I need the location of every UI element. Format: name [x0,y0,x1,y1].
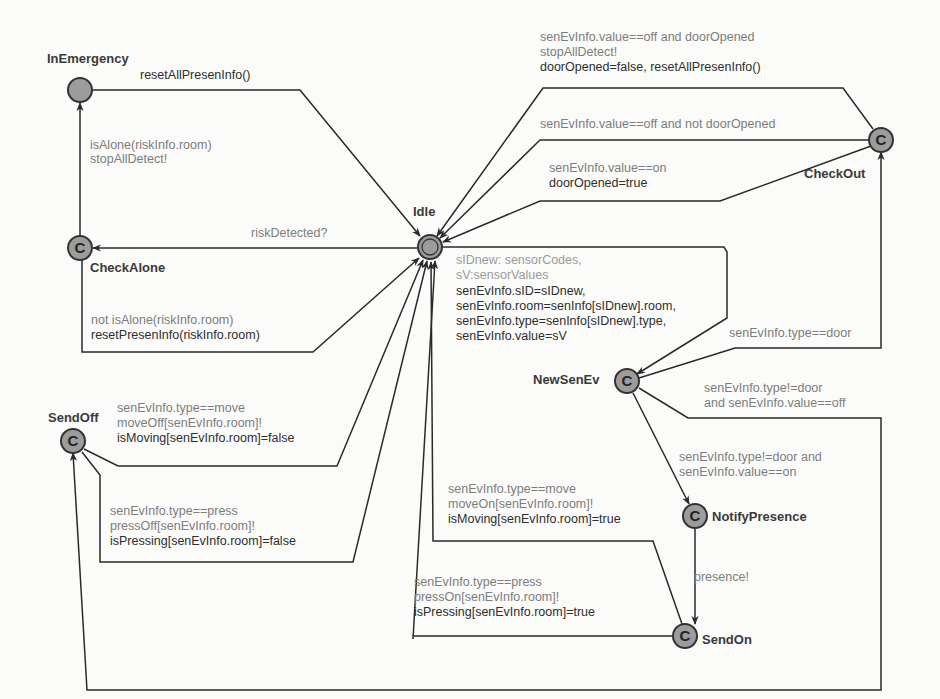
label-checkout-sync-stop: stopAllDetect! [540,45,617,59]
committed-icon: C [680,627,691,644]
node-new-sen-ev[interactable]: C [615,369,639,393]
node-label-idle: Idle [413,204,435,219]
label-sendoff-move-assign: isMoving[senEvInfo.room]=false [117,431,295,445]
node-send-on[interactable]: C [673,624,697,648]
label-checkout-guard-on: senEvInfo.value==on [549,161,666,175]
label-select-sidnew: sIDnew: sensorCodes, [456,253,582,267]
label-sendon-press-sync: pressOn[senEvInfo.room]! [414,590,559,604]
label-newsenev-guard-notdoor-on-2: senEvInfo.value==on [679,465,796,479]
label-checkalone-idle-guard: not isAlone(riskInfo.room) [91,313,233,327]
label-assign-value: senEvInfo.value=sV [456,329,567,343]
label-sendoff-press-guard: senEvInfo.type==press [110,504,238,518]
node-label-send-off: SendOff [48,410,99,425]
node-in-emergency[interactable] [68,78,92,102]
label-newsenev-guard-notdoor-off-1: senEvInfo.type!=door [704,381,822,395]
label-assign-room: senEvInfo.room=senInfo[sIDnew].room, [456,299,676,313]
node-send-off[interactable]: C [61,429,85,453]
label-newsenev-guard-notdoor-off-2: and senEvInfo.value==off [704,396,846,410]
label-checkalone-emergency-sync: stopAllDetect! [90,152,167,166]
label-newsenev-guard-door: senEvInfo.type==door [729,326,851,340]
node-label-check-out: CheckOut [804,166,865,181]
committed-icon: C [622,372,633,389]
edge-newsenev-to-notify [633,393,689,504]
label-sendon-press-assign: isPressing[senEvInfo.room]=true [414,605,595,619]
label-newsenev-guard-notdoor-on-1: senEvInfo.type!=door and [679,450,822,464]
node-check-alone[interactable]: C [68,236,92,260]
committed-icon: C [876,131,887,148]
label-sendon-press-guard: senEvInfo.type==press [414,575,542,589]
label-presence-sync: presence! [694,570,749,584]
label-risk-detected: riskDetected? [251,226,327,240]
label-select-sv: sV:sensorValues [456,268,548,282]
node-label-notify-presence: NotifyPresence [712,509,807,524]
label-assign-sid: senEvInfo.sID=sIDnew, [456,284,586,298]
label-checkout-guard-not-opened: senEvInfo.value==off and not doorOpened [540,117,775,131]
label-sendoff-move-sync: moveOff[senEvInfo.room]! [117,416,262,430]
label-sendoff-press-sync: pressOff[senEvInfo.room]! [110,519,255,533]
node-notify-presence[interactable]: C [683,504,707,528]
label-sendoff-move-guard: senEvInfo.type==move [117,401,245,415]
label-assign-type: senEvInfo.type=senInfo[sIDnew].type, [456,314,666,328]
node-label-new-sen-ev: NewSenEv [533,372,599,387]
committed-icon: C [75,239,86,256]
label-sendon-move-guard: senEvInfo.type==move [448,482,576,496]
edge-checkout-to-idle-off-not-opened [440,140,869,238]
label-sendon-move-assign: isMoving[senEvInfo.room]=true [448,512,621,526]
label-emergency-assign: resetAllPresenInfo() [140,68,250,82]
node-label-in-emergency: InEmergency [47,51,129,66]
node-label-check-alone: CheckAlone [90,260,165,275]
label-checkout-assign-reset: doorOpened=false, resetAllPresenInfo() [540,60,761,74]
label-checkalone-idle-assign: resetPresenInfo(riskInfo.room) [91,328,260,342]
label-sendoff-press-assign: isPressing[senEvInfo.room]=false [110,534,296,548]
label-checkalone-emergency-guard: isAlone(riskInfo.room) [90,138,212,152]
node-idle[interactable] [418,235,442,259]
committed-icon: C [690,507,701,524]
label-checkout-guard-off-opened: senEvInfo.value==off and doorOpened [540,30,755,44]
committed-icon: C [68,432,79,449]
node-label-send-on: SendOn [702,632,752,647]
label-checkout-assign-door-opened: doorOpened=true [549,176,647,190]
label-sendon-move-sync: moveOn[senEvInfo.room]! [448,497,593,511]
node-check-out[interactable]: C [869,128,893,152]
